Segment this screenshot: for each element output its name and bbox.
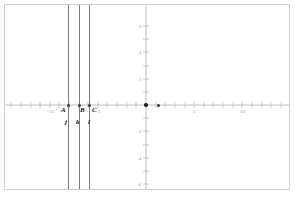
vertical-line-l[interactable] [89,5,90,189]
y-tick-label-4: 4 [139,50,142,55]
point-label-a: A [61,107,66,114]
vertical-line-k[interactable] [79,5,80,189]
point-c[interactable] [88,104,91,107]
y-tick-label-2: 2 [139,77,142,82]
line-label-k: k [76,119,80,126]
x-tick-label-10: 10 [240,109,245,114]
line-label-j: j [65,119,67,126]
figure-canvas: A B C j k l -10 -5 5 10 6 4 2 -2 -4 -6 [0,0,295,201]
x-tick-label-5: 5 [193,109,196,114]
vertical-line-j[interactable] [68,5,69,189]
point-label-b: B [80,107,85,114]
x-tick-label--10: -10 [47,109,54,114]
point-right-of-origin[interactable] [157,104,160,107]
line-label-l: l [88,119,90,126]
point-origin[interactable] [144,103,148,107]
y-tick-label--4: -4 [137,156,141,161]
y-tick-label--2: -2 [137,129,141,134]
coordinate-plane-svg [0,0,295,201]
y-tick-label-6: 6 [139,24,142,29]
y-tick-label--6: -6 [137,182,141,187]
x-tick-label--5: -5 [96,109,100,114]
point-a[interactable] [67,104,70,107]
